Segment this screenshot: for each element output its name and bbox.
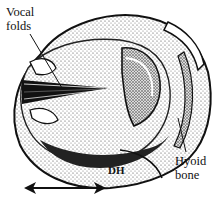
larynx-figure: Vocal folds Hyoid bone DH xyxy=(0,0,216,199)
vocal-folds-label-line2: folds xyxy=(6,19,34,33)
hyoid-label-line2: bone xyxy=(175,168,206,182)
dh-label: DH xyxy=(108,163,125,177)
hyoid-bone-label: Hyoid bone xyxy=(175,154,206,182)
hyoid-label-line1: Hyoid xyxy=(175,154,206,168)
vocal-folds-label-line1: Vocal xyxy=(6,5,34,19)
vocal-folds-label: Vocal folds xyxy=(6,5,34,33)
